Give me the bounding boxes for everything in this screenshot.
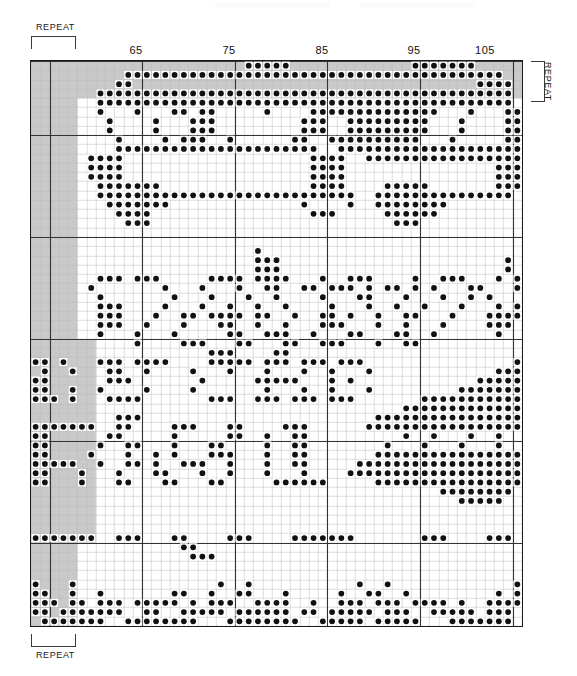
column-tick-3: 95	[394, 44, 434, 56]
pattern-chart-canvas	[31, 61, 522, 626]
pattern-chart-grid	[30, 60, 523, 627]
scan-artifact-right	[360, 2, 475, 8]
repeat-bracket-bottom-left	[31, 634, 76, 647]
repeat-label-top-left: REPEAT	[36, 22, 75, 32]
column-tick-1: 75	[209, 44, 249, 56]
column-tick-2: 85	[302, 44, 342, 56]
column-tick-0: 65	[116, 44, 156, 56]
column-tick-4: 105	[465, 44, 505, 56]
chart-page: REPEAT 65 75 85 95 105 REPEAT REPEAT	[0, 0, 577, 676]
repeat-label-bottom-left: REPEAT	[36, 650, 75, 660]
repeat-bracket-top-left	[31, 36, 76, 49]
repeat-label-right: REPEAT	[543, 62, 553, 101]
scan-artifact-left	[215, 2, 330, 8]
